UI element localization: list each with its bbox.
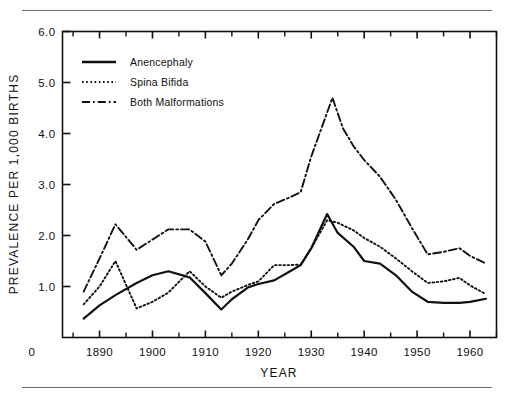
origin-label: 0: [29, 346, 36, 358]
x-axis-title: YEAR: [260, 366, 297, 380]
series-line-spina-bifida: [84, 220, 486, 308]
chart-legend: AnencephalySpina BifidaBoth Malformation…: [82, 56, 224, 108]
x-axis-top-ticks: [73, 32, 496, 39]
bottom-horizontal-rule: [22, 387, 492, 388]
y-tick-label: 1.0: [38, 281, 55, 293]
x-tick-label: 1890: [86, 346, 113, 358]
legend-label: Both Malformations: [130, 96, 224, 108]
x-tick-label: 1940: [351, 346, 378, 358]
x-tick-label: 1960: [456, 346, 483, 358]
x-tick-label: 1920: [245, 346, 272, 358]
x-axis-tick-labels: 18901900191019201930194019501960: [86, 346, 484, 358]
x-tick-label: 1950: [404, 346, 431, 358]
x-tick-label: 1910: [192, 346, 219, 358]
x-tick-label: 1930: [298, 346, 325, 358]
data-series-group: [84, 98, 486, 319]
y-tick-label: 4.0: [38, 128, 55, 140]
x-tick-label: 1900: [139, 346, 166, 358]
plot-frame: [63, 32, 497, 338]
prevalence-line-chart: 1.02.03.04.05.06.0 189019001910192019301…: [0, 0, 513, 398]
legend-label: Spina Bifida: [130, 76, 188, 88]
x-axis-ticks: [73, 331, 496, 338]
y-tick-label: 6.0: [38, 26, 55, 38]
y-tick-label: 2.0: [38, 230, 55, 242]
y-axis-title: PREVALENCE PER 1,000 BIRTHS: [7, 74, 21, 295]
y-axis-tick-labels: 1.02.03.04.05.06.0: [38, 26, 55, 293]
y-tick-label: 5.0: [38, 77, 55, 89]
top-horizontal-rule: [22, 10, 492, 11]
y-axis-ticks: [63, 32, 71, 287]
series-line-anencephaly: [84, 214, 486, 319]
figure-container: 1.02.03.04.05.06.0 189019001910192019301…: [0, 0, 513, 398]
legend-label: Anencephaly: [130, 56, 193, 68]
series-line-both-malformations: [84, 98, 486, 292]
y-tick-label: 3.0: [38, 179, 55, 191]
